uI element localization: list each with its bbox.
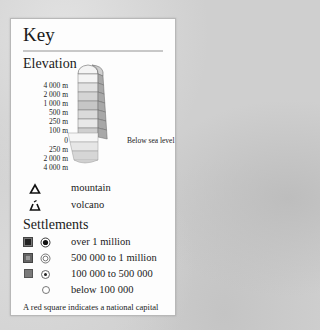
mountain-icon [29, 183, 41, 195]
settlement-label-below-100k: below 100 000 [71, 284, 133, 295]
below-sea-band-0 [68, 133, 98, 142]
city-small-dot-ring-icon [40, 269, 51, 280]
elev-label-100: 100 m [28, 126, 68, 135]
volcano-icon [29, 200, 41, 212]
elevation-band-front-5 [78, 119, 98, 128]
settlement-label-500k-1m: 500 000 to 1 million [71, 252, 157, 263]
capital-square-large-icon [23, 237, 33, 247]
legend-label-mountain: mountain [71, 182, 111, 193]
capital-square-small-icon [24, 269, 33, 278]
below-sea-band-1 [70, 142, 98, 151]
below-sea-level-label: Below sea level [127, 137, 174, 145]
elev-label-0: 0 [28, 136, 68, 145]
elev-label-4000: 4 000 m [28, 81, 68, 90]
below-sea-band-2 [72, 151, 98, 160]
settlement-label-100k-500k: 100 000 to 500 000 [71, 268, 153, 279]
elev-label-2000: 2 000 m [28, 90, 68, 99]
elev-label-1000: 1 000 m [28, 99, 68, 108]
title-divider [23, 50, 163, 52]
elev-label-500: 500 m [28, 108, 68, 117]
elevation-band-side-6 [98, 128, 107, 139]
elev-label-minus-2000: 2 000 m [28, 154, 68, 163]
below-sea-base [74, 160, 98, 163]
capital-square-medium-icon [23, 253, 33, 263]
elev-label-minus-250: 250 m [28, 145, 68, 154]
elevation-band-front-3 [78, 101, 98, 110]
key-title: Key [23, 24, 55, 46]
elev-label-minus-4000: 4 000 m [28, 163, 68, 172]
elevation-band-front-0 [78, 74, 98, 83]
capital-note: A red square indicates a national capita… [23, 302, 163, 312]
elevation-band-front-4 [78, 110, 98, 119]
elevation-column-diagram [66, 57, 121, 182]
elev-label-250: 250 m [28, 117, 68, 126]
settlements-heading: Settlements [23, 217, 88, 233]
map-key-panel: Key Elevation 4 000 m 2 000 m 1 000 m 50… [10, 18, 176, 316]
city-double-ring-icon [40, 253, 51, 264]
settlement-label-over-1-million: over 1 million [71, 236, 131, 247]
city-dot-ring-icon [40, 237, 51, 248]
elevation-band-front-2 [78, 92, 98, 101]
elevation-band-front-1 [78, 83, 98, 92]
town-ring-icon [41, 285, 51, 295]
legend-label-volcano: volcano [71, 199, 104, 210]
